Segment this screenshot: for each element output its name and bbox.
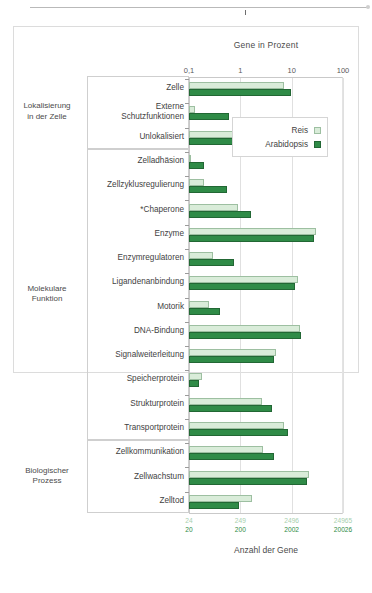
category-label: Zellkommunikation — [24, 447, 184, 457]
page-top-rule — [30, 7, 368, 8]
bar-arabidopsis — [189, 89, 291, 96]
group-box — [87, 149, 189, 440]
category-label: Signalweiterleitung — [24, 350, 184, 360]
axis-row-tick — [185, 346, 189, 347]
category-label: Zellzyklusregulierung — [24, 180, 184, 190]
bar-arabidopsis — [189, 186, 227, 193]
gridline — [343, 78, 344, 513]
category-label: Unlokalisiert — [24, 132, 184, 142]
category-label-line: Strukturprotein — [24, 399, 184, 409]
bar-arabidopsis — [189, 356, 274, 363]
category-label: Zelladhäsion — [24, 156, 184, 166]
category-label: ExterneSchutzfunktionen — [24, 102, 184, 122]
bar-arabidopsis — [189, 113, 229, 120]
category-label: Zelle — [24, 83, 184, 93]
bar-arabidopsis — [189, 308, 220, 315]
axis-row-tick — [185, 249, 189, 250]
bar-arabidopsis — [189, 332, 301, 339]
category-label: Zellwachstum — [24, 472, 184, 482]
category-label: Enzymregulatoren — [24, 253, 184, 263]
category-label-line: Externe — [24, 102, 184, 112]
axis-row-tick — [185, 322, 189, 323]
bar-reis — [189, 495, 252, 502]
category-label: DNA-Bindung — [24, 326, 184, 336]
axis-row-tick — [185, 200, 189, 201]
bar-reis — [189, 349, 276, 356]
category-label-line: Signalweiterleitung — [24, 350, 184, 360]
axis-bottom-tick-arabidopsis: 20 — [185, 525, 192, 534]
axis-bottom-tick-reis: 249 — [235, 516, 246, 525]
chart-legend[interactable]: Reis Arabidopsis — [232, 117, 328, 157]
axis-row-tick — [185, 419, 189, 420]
axis-row-tick — [185, 298, 189, 299]
axis-top-ticks: 0,1110100 — [189, 66, 343, 76]
axis-bottom-tick-arabidopsis: 200 — [235, 525, 246, 534]
axis-top-tick-label: 0,1 — [184, 66, 194, 75]
bar-arabidopsis — [189, 211, 251, 218]
axis-row-tick — [185, 492, 189, 493]
category-label: Zelltod — [24, 496, 184, 506]
bar-reis — [189, 228, 316, 235]
axis-bottom-ticks: 2420249200249620022496520026 — [189, 516, 343, 538]
category-label-line: Schutzfunktionen — [24, 112, 184, 122]
axis-row-tick — [185, 443, 189, 444]
category-label: Enzyme — [24, 229, 184, 239]
legend-label-reis: Reis — [292, 126, 308, 135]
chart-bottom-title: Anzahl der Gene — [186, 545, 346, 555]
axis-row-tick — [185, 103, 189, 104]
bar-arabidopsis — [189, 502, 239, 509]
category-label: Speicherprotein — [24, 374, 184, 384]
axis-row-tick — [185, 370, 189, 371]
axis-bottom-tick-label: 2420 — [185, 516, 192, 534]
bar-arabidopsis — [189, 405, 272, 412]
category-label-line: Ligandenanbindung — [24, 277, 184, 287]
category-label-line: DNA-Bindung — [24, 326, 184, 336]
bar-reis — [189, 276, 298, 283]
legend-label-arabidopsis: Arabidopsis — [265, 140, 308, 149]
axis-top-tick-label: 10 — [287, 66, 295, 75]
bar-reis — [189, 373, 202, 380]
category-label-line: *Chaperone — [24, 205, 184, 215]
category-label-line: Zelle — [24, 83, 184, 93]
axis-bottom-tick-reis: 24965 — [334, 516, 352, 525]
axis-top-tick-label: 100 — [337, 66, 350, 75]
axis-row-tick — [185, 128, 189, 129]
bar-arabidopsis — [189, 235, 314, 242]
category-label: Motorik — [24, 302, 184, 312]
category-label-line: Enzymregulatoren — [24, 253, 184, 263]
category-label-line: Speicherprotein — [24, 374, 184, 384]
legend-item-reis[interactable]: Reis — [292, 126, 321, 135]
bar-reis — [189, 155, 191, 162]
category-label: Transportprotein — [24, 423, 184, 433]
legend-item-arabidopsis[interactable]: Arabidopsis — [265, 140, 321, 149]
legend-swatch-arabidopsis-icon — [314, 141, 321, 148]
category-label-line: Zellwachstum — [24, 472, 184, 482]
category-label: *Chaperone — [24, 205, 184, 215]
axis-bottom-tick-reis: 24 — [185, 516, 192, 525]
category-label-line: Motorik — [24, 302, 184, 312]
bar-reis — [189, 106, 195, 113]
axis-bottom-tick-label: 2496520026 — [334, 516, 352, 534]
category-label-line: Zelladhäsion — [24, 156, 184, 166]
bar-arabidopsis — [189, 478, 307, 485]
bar-reis — [189, 422, 284, 429]
bar-reis — [189, 325, 300, 332]
category-label-line: Zellkommunikation — [24, 447, 184, 457]
legend-swatch-reis-icon — [314, 127, 321, 134]
axis-row-tick — [185, 176, 189, 177]
category-label-line: Zellzyklusregulierung — [24, 180, 184, 190]
axis-row-tick — [185, 273, 189, 274]
bar-reis — [189, 252, 213, 259]
category-label-line: Transportprotein — [24, 423, 184, 433]
axis-bottom-tick-label: 24962002 — [284, 516, 299, 534]
page-top-rule-tick — [245, 10, 246, 15]
category-label-line: Enzyme — [24, 229, 184, 239]
bar-reis — [189, 82, 284, 89]
chart-top-title: Gene in Prozent — [186, 40, 346, 50]
category-label: Strukturprotein — [24, 399, 184, 409]
bar-arabidopsis — [189, 380, 199, 387]
axis-row-tick — [185, 395, 189, 396]
axis-row-tick — [185, 79, 189, 80]
axis-row-tick — [185, 152, 189, 153]
bar-reis — [189, 179, 204, 186]
